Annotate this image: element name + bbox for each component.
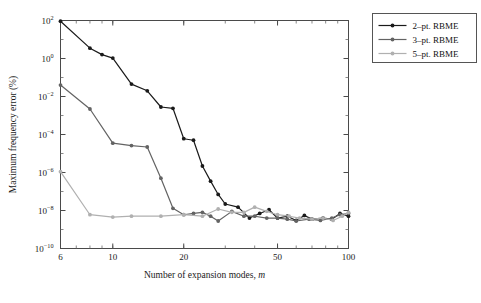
series-marker — [59, 170, 63, 174]
figure-container: 610205010010−1010−810−610−410−2100102Num… — [0, 0, 481, 303]
x-tick-label: 6 — [58, 252, 63, 262]
series-marker — [111, 141, 115, 145]
series-marker — [340, 214, 344, 218]
series-marker — [182, 137, 186, 141]
y-tick-label: 10−4 — [38, 128, 54, 139]
legend-label-2: 3–pt. RBME — [413, 35, 460, 45]
series-marker — [216, 193, 220, 197]
series-marker — [242, 214, 246, 218]
series-marker — [253, 205, 257, 209]
series-marker — [171, 106, 175, 110]
series-marker — [223, 202, 227, 206]
series-marker — [182, 213, 186, 217]
series-marker — [242, 210, 246, 214]
x-tick-label: 10 — [108, 252, 118, 262]
series-marker — [159, 214, 163, 218]
x-tick-label: 100 — [342, 252, 356, 262]
series-marker — [265, 216, 269, 220]
series-marker — [88, 213, 92, 217]
series-marker — [209, 214, 213, 218]
series-marker — [294, 219, 298, 223]
series-marker — [236, 205, 240, 209]
x-tick-label: 50 — [273, 252, 283, 262]
legend-label-3: 5–pt. RBME — [413, 49, 460, 59]
series-marker — [145, 145, 149, 149]
series-marker — [111, 56, 115, 60]
legend-marker-1 — [391, 24, 395, 28]
series-marker — [298, 216, 302, 220]
series-marker — [321, 216, 325, 220]
y-tick-label: 10−8 — [38, 204, 54, 215]
series-marker — [201, 164, 205, 168]
series-marker — [230, 210, 234, 214]
series-marker — [265, 209, 269, 213]
y-tick-label: 10−6 — [38, 166, 54, 177]
series-marker — [130, 144, 134, 148]
series-marker — [88, 107, 92, 111]
series-marker — [111, 215, 115, 219]
chart-svg: 610205010010−1010−810−610−410−2100102Num… — [0, 0, 481, 303]
y-tick-label: 10−10 — [35, 242, 54, 253]
series-marker — [59, 83, 63, 87]
series-marker — [171, 206, 175, 210]
series-marker — [201, 214, 205, 218]
series-marker — [331, 219, 335, 223]
y-tick-label: 102 — [41, 14, 53, 25]
series-marker — [216, 207, 220, 211]
series-marker — [276, 216, 280, 220]
y-tick-label: 100 — [41, 52, 53, 63]
series-marker — [59, 19, 63, 23]
series-marker — [201, 210, 205, 214]
series-marker — [88, 46, 92, 50]
series-marker — [258, 212, 262, 216]
y-axis-label: Maximum frequency error (%) — [8, 76, 19, 193]
series-marker — [145, 89, 149, 93]
series-marker — [130, 82, 134, 86]
series-marker — [310, 217, 314, 221]
series-marker — [100, 53, 104, 57]
series-marker — [192, 212, 196, 216]
series-marker — [159, 176, 163, 180]
x-tick-label: 20 — [179, 252, 189, 262]
series-marker — [276, 213, 280, 217]
series-marker — [159, 105, 163, 109]
x-axis-label: Number of expansion modes, m — [144, 270, 265, 280]
y-tick-label: 10−2 — [38, 90, 54, 101]
legend-marker-2 — [391, 38, 395, 42]
series-marker — [216, 219, 220, 223]
series-marker — [347, 210, 351, 214]
legend-marker-3 — [391, 52, 395, 56]
series-marker — [253, 214, 257, 218]
series-marker — [287, 214, 291, 218]
series-marker — [192, 138, 196, 142]
legend-label-1: 2–pt. RBME — [413, 21, 460, 31]
series-marker — [303, 214, 307, 218]
series-marker — [209, 179, 213, 183]
series-marker — [130, 214, 134, 218]
